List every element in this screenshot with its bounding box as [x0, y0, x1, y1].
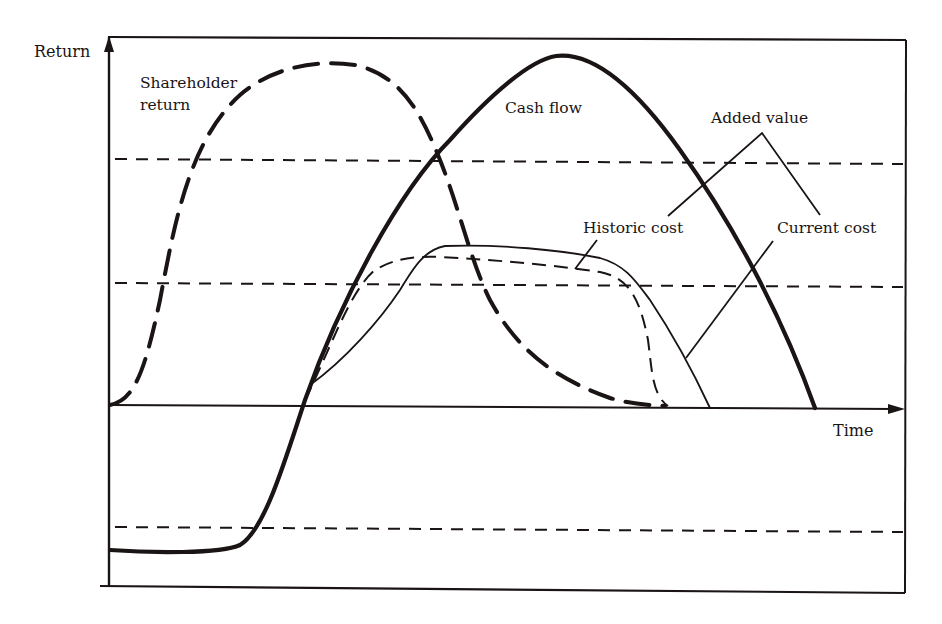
y-axis-label: Return [34, 42, 90, 61]
x-axis-label: Time [833, 421, 873, 440]
label-added-value: Added value [710, 109, 808, 127]
x-axis [109, 405, 895, 409]
label-shareholder-line1: Shareholder [140, 74, 238, 92]
label-cash-flow: Cash flow [505, 99, 583, 117]
label-historic-cost: Historic cost [583, 219, 684, 237]
label-current-cost: Current cost [777, 219, 877, 237]
series-historic-cost [305, 257, 668, 406]
y-axis-arrow-icon [104, 36, 114, 52]
diagram: Return Shareholder return Cash flow Adde… [0, 0, 942, 624]
x-axis-arrow-icon [888, 404, 905, 414]
leader-lines [575, 133, 820, 358]
reference-lines [115, 159, 903, 532]
series-cash-flow [110, 56, 815, 553]
series-current-cost [310, 246, 710, 408]
label-shareholder-line2: return [140, 96, 190, 114]
